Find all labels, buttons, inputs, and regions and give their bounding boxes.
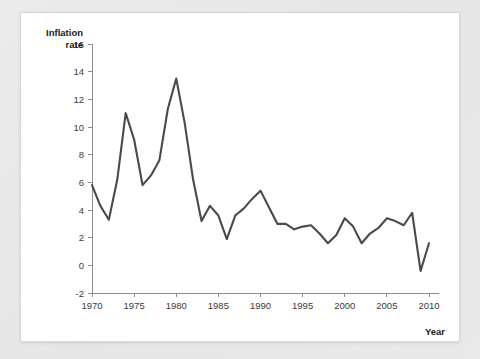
y-tick-label: 10 <box>73 122 84 133</box>
chart-card: -20246810121416 197019751980198519901995… <box>20 12 460 342</box>
chart-svg: -20246810121416 197019751980198519901995… <box>21 13 461 343</box>
x-axis-ticks: 197019751980198519901995200020052010 <box>81 293 439 311</box>
x-tick-label: 1995 <box>292 300 313 311</box>
y-axis-title-line1: Inflation <box>46 27 83 38</box>
y-axis-title-line2: rate <box>66 39 83 50</box>
data-series-group <box>92 79 429 271</box>
x-tick-label: 1990 <box>250 300 271 311</box>
x-tick-label: 1975 <box>124 300 145 311</box>
x-axis-title: Year <box>425 326 445 337</box>
y-tick-label: -2 <box>76 288 84 299</box>
x-tick-label: 2005 <box>376 300 397 311</box>
x-tick-label: 1970 <box>81 300 102 311</box>
y-tick-label: 2 <box>79 232 84 243</box>
y-tick-label: 14 <box>73 66 84 77</box>
y-tick-label: 0 <box>79 260 84 271</box>
y-axis-ticks: -20246810121416 <box>73 39 92 299</box>
line-chart: -20246810121416 197019751980198519901995… <box>21 13 461 343</box>
y-tick-label: 12 <box>73 94 84 105</box>
x-tick-label: 2010 <box>418 300 439 311</box>
page-root: -20246810121416 197019751980198519901995… <box>0 0 480 359</box>
axis-group <box>92 44 439 293</box>
x-tick-label: 1980 <box>166 300 187 311</box>
x-tick-label: 1985 <box>208 300 229 311</box>
series-line-inflation-rate <box>92 79 429 271</box>
y-tick-label: 8 <box>79 149 84 160</box>
y-tick-label: 6 <box>79 177 84 188</box>
y-tick-label: 4 <box>79 205 84 216</box>
x-tick-label: 2000 <box>334 300 355 311</box>
